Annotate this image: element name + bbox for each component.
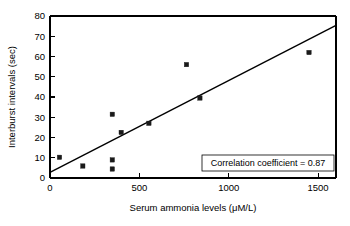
y-axis-title: Interburst intervals (sec): [6, 46, 17, 148]
chart-canvas: 0 10 20 30 40 50 60 70 80 0 500 1000 150…: [0, 0, 350, 226]
correlation-annotation: Correlation coefficient = 0.87: [202, 155, 334, 171]
correlation-annotation-label: Correlation coefficient = 0.87: [211, 158, 326, 168]
data-point: [147, 121, 151, 125]
y-ticklabel-10: 10: [34, 152, 45, 163]
data-point: [184, 62, 188, 66]
y-ticklabel-80: 80: [34, 10, 45, 21]
data-point: [119, 130, 123, 134]
data-point: [81, 164, 85, 168]
y-ticklabel-50: 50: [34, 71, 45, 82]
y-ticklabel-40: 40: [34, 91, 45, 102]
x-ticklabel-500: 500: [131, 182, 147, 193]
x-ticklabel-0: 0: [47, 182, 52, 193]
x-axis-title: Serum ammonia levels (μM/L): [130, 202, 257, 213]
data-point: [307, 50, 311, 54]
y-ticklabel-30: 30: [34, 112, 45, 123]
data-point: [110, 112, 114, 116]
y-ticklabel-70: 70: [34, 31, 45, 42]
x-ticklabel-1500: 1500: [308, 182, 329, 193]
y-axis-tick-labels: 0 10 20 30 40 50 60 70 80: [34, 10, 45, 183]
scatter-plot-figure: 0 10 20 30 40 50 60 70 80 0 500 1000 150…: [0, 0, 350, 226]
data-point: [110, 167, 114, 171]
x-ticklabel-1000: 1000: [218, 182, 239, 193]
data-point: [57, 155, 61, 159]
y-ticklabel-60: 60: [34, 51, 45, 62]
y-ticklabel-0: 0: [40, 172, 45, 183]
data-point: [198, 96, 202, 100]
y-ticklabel-20: 20: [34, 132, 45, 143]
data-point: [110, 158, 114, 162]
